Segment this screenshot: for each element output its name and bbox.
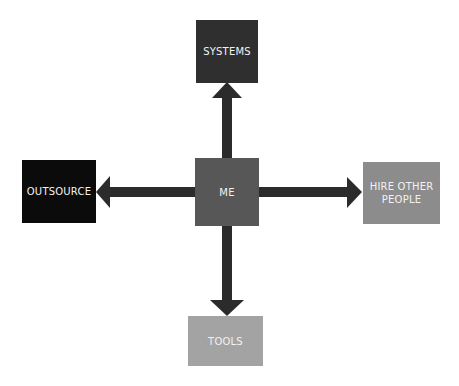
node-tools: TOOLS bbox=[188, 316, 263, 366]
arrow-right-icon bbox=[256, 177, 362, 208]
node-me: ME bbox=[195, 158, 259, 226]
node-hire-other-people: HIRE OTHER PEOPLE bbox=[363, 162, 440, 224]
node-label: TOOLS bbox=[204, 335, 247, 348]
arrow-down-icon bbox=[210, 224, 244, 316]
node-label: HIRE OTHER PEOPLE bbox=[363, 180, 440, 206]
node-label: SYSTEMS bbox=[199, 45, 255, 58]
node-label: OUTSOURCE bbox=[23, 185, 95, 198]
arrow-left-icon bbox=[96, 176, 198, 208]
node-outsource: OUTSOURCE bbox=[22, 160, 96, 223]
node-label: ME bbox=[215, 186, 238, 199]
node-systems: SYSTEMS bbox=[196, 20, 258, 83]
arrow-up-icon bbox=[212, 82, 242, 160]
